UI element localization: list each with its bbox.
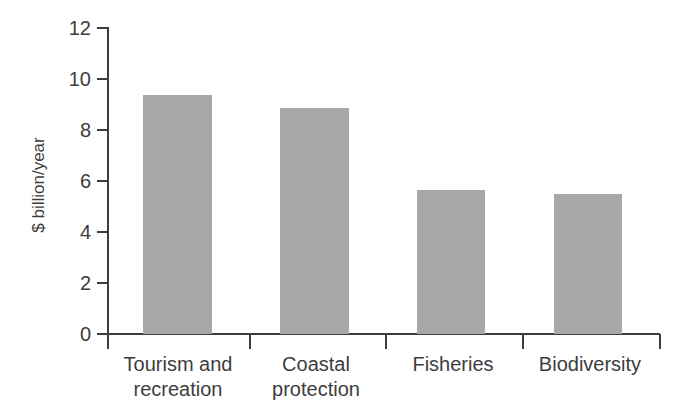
bar-chart-figure: 12 10 8 6 4 2 0 $ billion/year Touris xyxy=(0,0,699,405)
y-tick-label-0: 0 xyxy=(80,323,91,345)
cat-label-tourism-line1: Tourism and xyxy=(124,353,233,375)
chart-canvas: 12 10 8 6 4 2 0 $ billion/year Touris xyxy=(0,0,699,405)
y-axis-title: $ billion/year xyxy=(29,137,48,233)
y-tick-label-6: 6 xyxy=(80,170,91,192)
cat-label-tourism-line2: recreation xyxy=(134,378,223,400)
cat-label-coastal-line1: Coastal xyxy=(282,353,350,375)
bar-biodiversity xyxy=(554,194,622,334)
cat-label-coastal-line2: protection xyxy=(272,378,360,400)
cat-label-biodiversity: Biodiversity xyxy=(539,353,641,375)
bar-fisheries xyxy=(417,190,485,334)
cat-label-fisheries: Fisheries xyxy=(412,353,493,375)
bar-coastal-protection xyxy=(280,108,349,334)
bar-tourism-and-recreation xyxy=(143,95,212,334)
y-tick-label-10: 10 xyxy=(69,68,91,90)
y-tick-label-2: 2 xyxy=(80,272,91,294)
y-tick-label-12: 12 xyxy=(69,17,91,39)
y-tick-label-8: 8 xyxy=(80,119,91,141)
y-tick-label-4: 4 xyxy=(80,221,91,243)
